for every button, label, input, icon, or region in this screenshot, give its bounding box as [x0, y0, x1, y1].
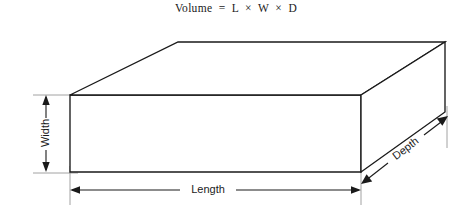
arrow-down-left-icon — [361, 174, 372, 184]
arrow-right-icon — [351, 186, 361, 193]
length-label: Length — [191, 183, 225, 195]
prism-front-face — [70, 95, 361, 172]
volume-box-diagram: Width Length Depth — [0, 0, 472, 224]
prism-outline — [70, 42, 445, 172]
width-label: Width — [39, 119, 51, 147]
arrow-down-icon — [42, 162, 49, 172]
arrow-up-icon — [42, 95, 49, 105]
arrow-left-icon — [70, 186, 80, 193]
